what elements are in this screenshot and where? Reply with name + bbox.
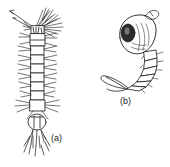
figure-container: (a) (b) — [0, 0, 170, 167]
panel-label-a: (a) — [51, 133, 62, 143]
larva-terminal-segment — [28, 114, 46, 130]
larva-thorax — [30, 34, 45, 46]
larva-abdomen — [30, 46, 45, 111]
larva-head — [31, 26, 44, 34]
panel-label-b: (b) — [120, 96, 131, 106]
mosquito-figure-illustration — [0, 0, 170, 167]
pupa-compound-eye — [121, 24, 135, 42]
